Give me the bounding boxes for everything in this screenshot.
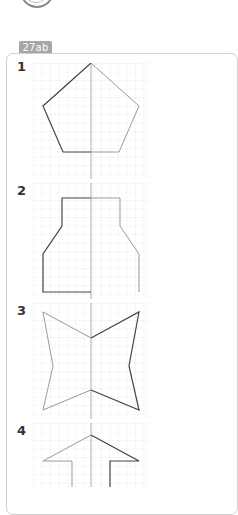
exercise-grid-4 bbox=[33, 423, 149, 487]
exercise-number-3: 3 bbox=[17, 303, 26, 318]
exercise-grid-1 bbox=[33, 63, 149, 179]
bottle-figure bbox=[33, 183, 149, 299]
exercise-grid-3 bbox=[33, 303, 149, 419]
exercise-number-4: 4 bbox=[17, 423, 26, 438]
exercise-grid-2 bbox=[33, 183, 149, 299]
bow-tie-figure bbox=[33, 303, 149, 419]
pentagon-figure bbox=[33, 63, 149, 179]
arrow-house-figure bbox=[33, 423, 149, 487]
exercise-number-2: 2 bbox=[17, 183, 26, 198]
exercise-number-1: 1 bbox=[17, 59, 26, 74]
